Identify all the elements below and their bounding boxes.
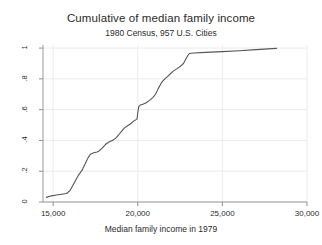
y-tick-label: .2 xyxy=(20,160,29,182)
x-tick-label: 15,000 xyxy=(31,209,75,218)
y-tick-label: .4 xyxy=(20,129,29,151)
x-tick-label: 20,000 xyxy=(116,209,160,218)
x-tick-label: 30,000 xyxy=(285,209,322,218)
gridlines xyxy=(43,45,307,202)
y-tick-label: 0 xyxy=(20,191,29,213)
cdf-line xyxy=(46,48,276,197)
y-tick-label: .8 xyxy=(20,67,29,89)
y-tick-label: 1 xyxy=(20,37,29,59)
chart-figure: Cumulative of median family income 1980 … xyxy=(0,0,322,245)
y-tick-label: .6 xyxy=(20,98,29,120)
x-tick-label: 25,000 xyxy=(200,209,244,218)
x-axis-title: Median family income in 1979 xyxy=(0,224,322,234)
